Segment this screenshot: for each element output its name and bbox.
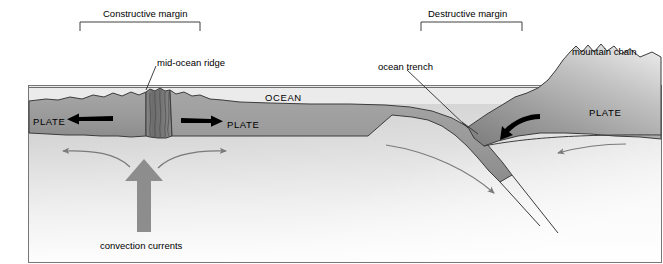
label-plate-right-of-ridge: PLATE bbox=[227, 120, 259, 130]
label-convection-currents: convection currents bbox=[100, 241, 182, 251]
plate-tectonics-diagram: Constructive margin Destructive margin m… bbox=[0, 0, 663, 264]
label-destructive-margin: Destructive margin bbox=[428, 9, 507, 19]
bracket-constructive-margin bbox=[80, 22, 200, 31]
label-constructive-margin: Constructive margin bbox=[103, 9, 187, 19]
bracket-destructive-margin bbox=[421, 22, 522, 31]
label-ocean-trench: ocean trench bbox=[378, 62, 433, 72]
margin-brackets bbox=[80, 22, 522, 31]
label-mountain-chain: mountain chain bbox=[572, 47, 636, 57]
diagram-canvas bbox=[0, 0, 663, 264]
label-mid-ocean-ridge: mid-ocean ridge bbox=[157, 58, 225, 68]
oceanic-plate-left bbox=[29, 92, 146, 137]
label-ocean: OCEAN bbox=[265, 93, 302, 103]
label-plate-left: PLATE bbox=[33, 117, 65, 127]
mid-ocean-ridge bbox=[146, 88, 172, 138]
label-plate-continental: PLATE bbox=[589, 108, 621, 118]
